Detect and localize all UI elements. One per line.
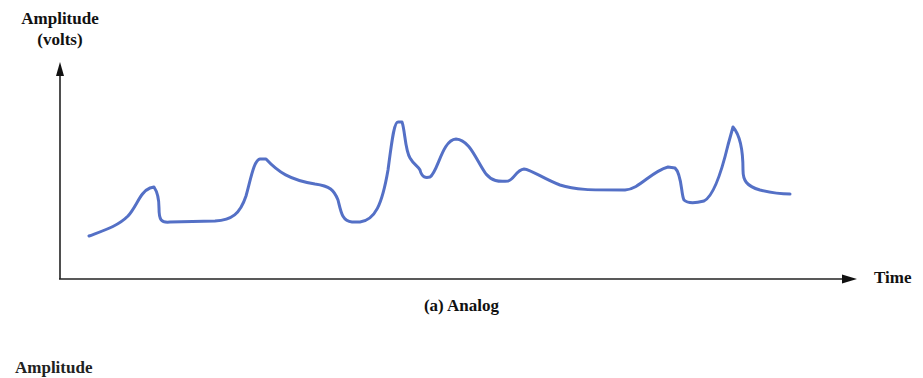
next-figure-label-cutoff: Amplitude: [15, 358, 92, 378]
x-axis-label: Time: [874, 268, 911, 288]
analog-signal-curve: [89, 122, 790, 236]
figure-caption-text: (a) Analog: [424, 296, 499, 316]
figure-caption: (a) Analog: [0, 296, 923, 316]
y-axis-arrowhead-icon: [56, 62, 64, 76]
x-axis-arrowhead-icon: [842, 275, 857, 284]
